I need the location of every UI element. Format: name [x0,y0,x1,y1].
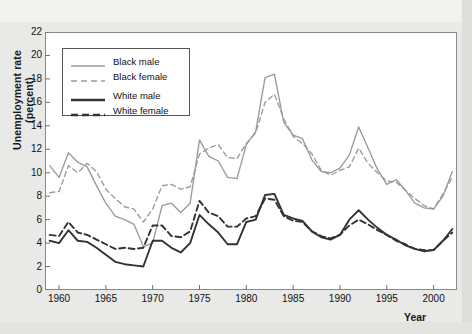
legend-item-white-male: White male [63,84,189,103]
legend-label-white-male: White male [113,90,161,101]
legend-swatch-black-female [70,72,106,82]
x-tick-1995: 1995 [376,293,398,304]
x-axis-ticks [59,285,434,290]
y-axis-tick-labels: 0246810121416182022 [18,32,42,290]
y-tick-4: 4 [20,237,42,248]
legend-label-white-female: White female [113,105,168,116]
y-tick-22: 22 [20,26,42,37]
y-tick-6: 6 [20,214,42,225]
legend-label-black-female: Black female [113,71,167,82]
legend-swatch-black-male [70,57,106,67]
chart-legend: Black male Black female White male White… [62,48,190,116]
legend-swatch-white-male [70,91,106,101]
page-margin-top [0,0,472,22]
y-tick-16: 16 [20,96,42,107]
x-tick-1970: 1970 [142,293,164,304]
legend-swatch-white-female [70,106,106,116]
y-axis-ticks [45,32,50,290]
page-margin-right [462,0,472,334]
y-tick-18: 18 [20,73,42,84]
legend-item-white-female: White female [63,103,189,118]
y-tick-10: 10 [20,167,42,178]
legend-item-black-male: Black male [63,49,189,69]
page-margin-bottom [0,322,472,334]
series-line-white-male [50,194,453,267]
x-tick-1965: 1965 [95,293,117,304]
x-tick-2000: 2000 [422,293,444,304]
x-tick-1975: 1975 [188,293,210,304]
x-axis-title: Year [404,311,426,323]
y-tick-8: 8 [20,190,42,201]
figure: Unemployment rate (percent) 024681012141… [0,0,472,334]
x-tick-1990: 1990 [329,293,351,304]
x-axis-tick-labels: 196019651970197519801985199019952000 [45,293,457,309]
legend-label-black-male: Black male [113,56,159,67]
x-tick-1960: 1960 [48,293,70,304]
y-tick-2: 2 [20,261,42,272]
x-tick-1985: 1985 [282,293,304,304]
y-tick-14: 14 [20,120,42,131]
y-tick-20: 20 [20,49,42,60]
legend-item-black-female: Black female [63,69,189,84]
y-tick-0: 0 [20,284,42,295]
series-line-white-female [50,199,453,251]
x-tick-1980: 1980 [235,293,257,304]
y-tick-12: 12 [20,143,42,154]
